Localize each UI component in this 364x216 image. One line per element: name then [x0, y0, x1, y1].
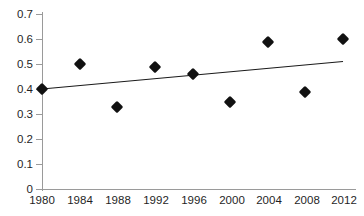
x-axis-tick-label-text: 2000	[219, 194, 245, 206]
x-axis-tick-label-text: 1988	[105, 194, 131, 206]
data-point-marker	[186, 68, 199, 81]
data-point-marker	[149, 60, 162, 73]
x-axis-tick-label-text: 2012	[331, 194, 357, 206]
x-axis-tick-label-text: 2008	[294, 194, 320, 206]
x-axis-tick-label-text: 2004	[256, 194, 282, 206]
x-axis-tick-label-text: 1980	[29, 194, 55, 206]
y-axis-tick-label-text: 0.1	[17, 158, 33, 170]
data-point-marker	[337, 33, 350, 46]
y-axis-tick	[36, 39, 42, 40]
y-axis-tick-label: 0.6	[0, 33, 33, 45]
data-point-marker	[261, 35, 274, 48]
y-axis-tick-label: 0.2	[0, 133, 33, 145]
y-axis-tick	[36, 14, 42, 15]
x-axis-tick-label: 2012	[324, 194, 364, 206]
y-axis-tick	[36, 164, 42, 165]
x-axis-tick-label: 1984	[60, 194, 100, 206]
x-axis-tick-label: 2000	[212, 194, 252, 206]
y-axis-tick-label-text: 0.6	[17, 33, 33, 45]
y-axis-tick	[36, 189, 42, 190]
data-point-marker	[73, 58, 86, 71]
y-axis-line	[42, 12, 43, 191]
y-axis-tick	[36, 114, 42, 115]
y-axis-tick	[36, 139, 42, 140]
x-axis-line	[36, 189, 356, 190]
y-axis-tick-label: 0.4	[0, 83, 33, 95]
y-axis-tick-label: 0.5	[0, 58, 33, 70]
y-axis-tick-label-text: 0.4	[17, 83, 33, 95]
scatter-chart: 0.7 0.6 0.5 0.4 0.3 0.2 0.1 0 1980 1984 …	[0, 0, 364, 216]
x-axis-tick-label: 2008	[287, 194, 327, 206]
data-point-marker	[224, 95, 237, 108]
data-point-marker	[36, 83, 49, 96]
y-axis-tick-label-text: 0.7	[17, 8, 33, 20]
y-axis-tick-label: 0.3	[0, 108, 33, 120]
y-axis-tick-label-text: 0.3	[17, 108, 33, 120]
data-point-marker	[111, 100, 124, 113]
x-axis-tick-label-text: 1992	[143, 194, 169, 206]
x-axis-tick-label: 1980	[22, 194, 62, 206]
x-axis-tick-label-text: 1984	[67, 194, 93, 206]
x-axis-tick-label: 1992	[136, 194, 176, 206]
y-axis-tick	[36, 64, 42, 65]
y-axis-tick-label: 0.7	[0, 8, 33, 20]
x-axis-tick-label: 2004	[249, 194, 289, 206]
data-point-marker	[299, 85, 312, 98]
y-axis-tick-label: 0.1	[0, 158, 33, 170]
x-axis-tick-label: 1988	[98, 194, 138, 206]
x-axis-tick-label: 1996	[174, 194, 214, 206]
y-axis-tick-label-text: 0.5	[17, 58, 33, 70]
x-axis-tick-label-text: 1996	[181, 194, 207, 206]
trend-line	[0, 0, 364, 216]
y-axis-tick-label-text: 0.2	[17, 133, 33, 145]
